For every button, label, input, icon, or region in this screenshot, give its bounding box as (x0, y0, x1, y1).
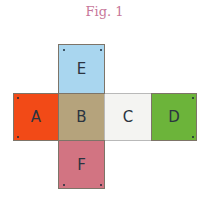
corner-dot (63, 184, 65, 186)
corner-dot (17, 97, 19, 99)
corner-dot (100, 49, 102, 51)
face-f: F (58, 140, 105, 189)
corner-dot (192, 136, 194, 138)
corner-dot (100, 184, 102, 186)
face-c: C (104, 93, 152, 141)
corner-dot (17, 136, 19, 138)
face-f-label: F (77, 156, 86, 174)
face-b: B (58, 93, 105, 141)
corner-dot (192, 97, 194, 99)
corner-dot (63, 49, 65, 51)
face-a: A (13, 93, 59, 141)
face-b-label: B (76, 108, 86, 126)
face-c-label: C (123, 108, 133, 126)
face-d-label: D (168, 108, 180, 126)
face-d: D (151, 93, 197, 141)
figure-title: Fig. 1 (0, 4, 209, 19)
face-e: E (58, 44, 105, 94)
face-e-label: E (77, 60, 86, 78)
face-a-label: A (31, 108, 41, 126)
